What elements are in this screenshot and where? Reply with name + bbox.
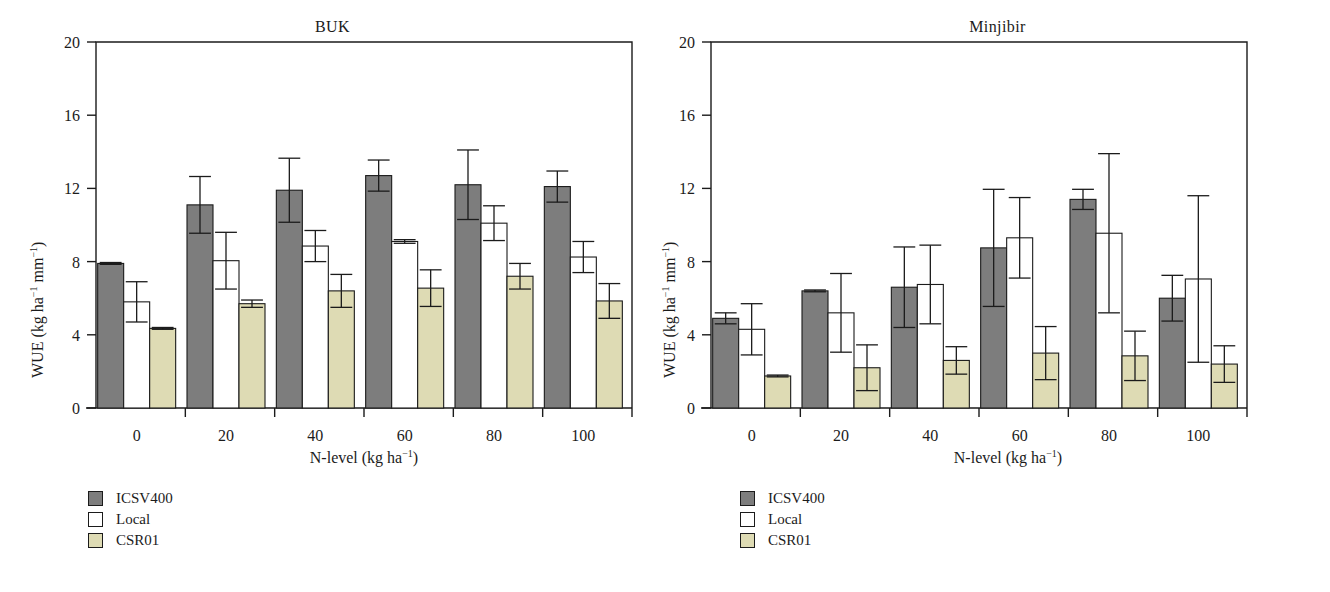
legend-swatch-icon xyxy=(740,491,755,506)
y-tick-label: 0 xyxy=(687,400,695,417)
y-tick-label: 20 xyxy=(64,34,80,51)
bar-csr01-n80[interactable] xyxy=(507,276,533,408)
bar-local-n60[interactable] xyxy=(392,241,418,408)
legend-swatch-icon xyxy=(740,533,755,548)
legend-item-label: ICSV400 xyxy=(768,490,825,507)
legend-item-label: CSR01 xyxy=(768,532,811,549)
y-tick-label: 8 xyxy=(72,254,80,271)
legend-item-csr01[interactable]: CSR01 xyxy=(740,530,825,551)
bar-csr01-n0[interactable] xyxy=(765,376,791,408)
figure-root: BUK WUE (kg ha−1 mm−1) N-level (kg ha−1)… xyxy=(0,0,1330,592)
y-tick-label: 4 xyxy=(72,327,80,344)
legend-minjibir: ICSV400LocalCSR01 xyxy=(740,488,825,551)
legend-swatch-icon xyxy=(88,491,103,506)
y-tick-label: 16 xyxy=(64,107,80,124)
y-tick-label: 16 xyxy=(679,107,695,124)
x-tick-label: 80 xyxy=(486,427,502,444)
bar-icsv400-n0[interactable] xyxy=(713,318,739,408)
legend-swatch-icon xyxy=(88,533,103,548)
bar-local-n40[interactable] xyxy=(302,246,328,408)
y-tick-label: 4 xyxy=(687,327,695,344)
bar-csr01-n40[interactable] xyxy=(328,291,354,408)
y-tick-label: 12 xyxy=(64,180,80,197)
y-tick-label: 12 xyxy=(679,180,695,197)
panel-buk: BUK WUE (kg ha−1 mm−1) N-level (kg ha−1)… xyxy=(0,0,665,592)
x-tick-label: 100 xyxy=(1186,427,1210,444)
x-tick-label: 60 xyxy=(397,427,413,444)
bar-icsv400-n0[interactable] xyxy=(98,263,124,408)
x-tick-label: 0 xyxy=(748,427,756,444)
legend-swatch-icon xyxy=(740,512,755,527)
legend-swatch-icon xyxy=(88,512,103,527)
y-tick-label: 20 xyxy=(679,34,695,51)
x-tick-label: 20 xyxy=(218,427,234,444)
legend-item-label: CSR01 xyxy=(116,532,159,549)
bar-icsv400-n60[interactable] xyxy=(366,176,392,408)
legend-item-local[interactable]: Local xyxy=(88,509,173,530)
legend-item-label: Local xyxy=(768,511,802,528)
x-tick-label: 100 xyxy=(571,427,595,444)
x-tick-label: 0 xyxy=(133,427,141,444)
x-tick-label: 20 xyxy=(833,427,849,444)
legend-item-csr01[interactable]: CSR01 xyxy=(88,530,173,551)
x-tick-label: 80 xyxy=(1101,427,1117,444)
bar-csr01-n0[interactable] xyxy=(150,328,176,408)
legend-buk: ICSV400LocalCSR01 xyxy=(88,488,173,551)
legend-item-label: Local xyxy=(116,511,150,528)
bar-local-n80[interactable] xyxy=(481,223,507,408)
bar-icsv400-n20[interactable] xyxy=(187,205,213,408)
legend-item-local[interactable]: Local xyxy=(740,509,825,530)
bar-local-n100[interactable] xyxy=(570,257,596,408)
legend-item-label: ICSV400 xyxy=(116,490,173,507)
panel-minjibir: Minjibir WUE (kg ha−1 mm−1) N-level (kg … xyxy=(665,0,1330,592)
bar-icsv400-n20[interactable] xyxy=(802,291,828,408)
x-tick-label: 40 xyxy=(922,427,938,444)
bar-icsv400-n80[interactable] xyxy=(1070,199,1096,408)
bar-csr01-n20[interactable] xyxy=(239,304,265,408)
x-tick-label: 60 xyxy=(1012,427,1028,444)
legend-item-icsv400[interactable]: ICSV400 xyxy=(88,488,173,509)
legend-item-icsv400[interactable]: ICSV400 xyxy=(740,488,825,509)
y-tick-label: 8 xyxy=(687,254,695,271)
y-tick-label: 0 xyxy=(72,400,80,417)
bar-icsv400-n100[interactable] xyxy=(544,187,570,408)
x-tick-label: 40 xyxy=(307,427,323,444)
